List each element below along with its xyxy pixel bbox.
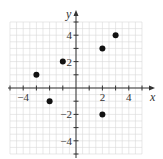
x-tick-label: 2 (100, 91, 106, 103)
x-tick-label: 4 (126, 91, 132, 103)
x-axis-label: x (149, 90, 156, 104)
data-point (99, 111, 105, 117)
scatter-plot: −42442−2−4 x y (0, 0, 163, 159)
data-point (47, 98, 53, 104)
y-axis-label: y (65, 7, 72, 21)
y-axis-arrow (74, 10, 79, 16)
x-tick-label: −4 (17, 91, 29, 103)
y-tick-label: 2 (67, 56, 73, 68)
y-tick-label: −4 (60, 135, 72, 147)
data-point (113, 32, 119, 38)
y-tick-label: −2 (60, 108, 72, 120)
data-point (60, 59, 66, 65)
y-tick-label: 4 (67, 29, 73, 41)
data-point (99, 45, 105, 51)
data-point (33, 72, 39, 78)
